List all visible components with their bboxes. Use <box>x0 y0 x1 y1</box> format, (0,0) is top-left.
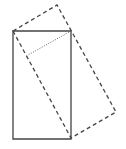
dashed-rotated-rectangle <box>13 5 116 138</box>
dotted-segment <box>28 31 71 55</box>
geometry-diagram <box>0 0 126 149</box>
